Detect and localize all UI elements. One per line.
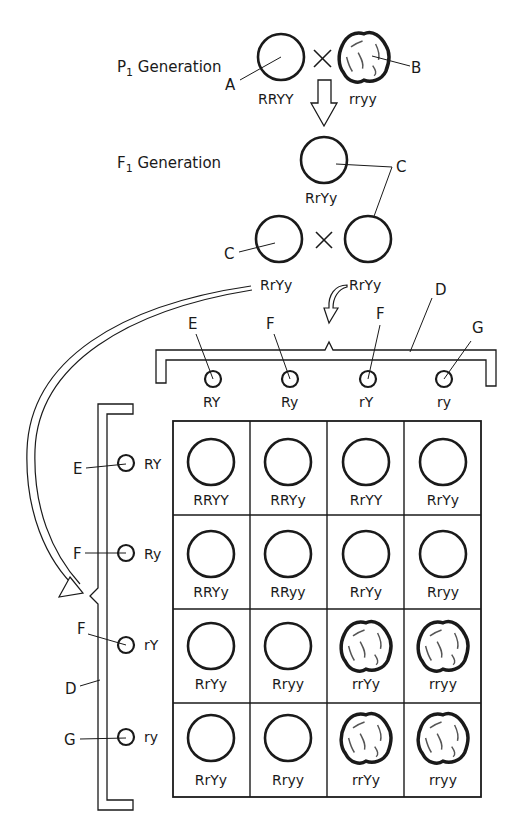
svg-text:Ry: Ry: [144, 546, 161, 562]
wrinkled-seed-icon: [418, 621, 468, 671]
genotype-f1: RrYy: [305, 190, 337, 206]
curved-arrow-to-top-gametes-icon: [324, 285, 347, 323]
svg-text:Rryy: Rryy: [272, 772, 304, 788]
left-gamete-3: G ry: [64, 729, 158, 749]
punnett-cell-0-2: RrYY: [343, 439, 389, 508]
top-gamete-0: E RY: [188, 315, 221, 410]
svg-text:RrYY: RrYY: [350, 492, 383, 508]
punnett-cell-0-1: RRYy: [265, 439, 311, 508]
svg-text:RRYY: RRYY: [193, 492, 229, 508]
svg-text:G: G: [472, 319, 484, 337]
down-arrow-icon: [311, 80, 337, 126]
svg-text:F: F: [77, 620, 86, 638]
svg-text:rY: rY: [359, 394, 374, 410]
round-seed-f1: [301, 137, 347, 183]
svg-text:G: G: [64, 731, 76, 749]
left-gamete-2: F rY: [77, 620, 159, 653]
svg-text:RRyy: RRyy: [270, 584, 305, 600]
svg-text:RRYy: RRYy: [270, 492, 305, 508]
svg-text:ry: ry: [437, 394, 451, 410]
pointer-line-d-left: [80, 680, 100, 686]
left-gamete-0: E RY: [73, 455, 162, 478]
svg-text:RrYy: RrYy: [195, 676, 227, 692]
punnett-cell-2-0: RrYy: [188, 623, 234, 692]
left-gamete-1: F Ry: [73, 545, 161, 563]
svg-text:rY: rY: [144, 637, 159, 653]
svg-text:RRYy: RRYy: [193, 584, 228, 600]
round-seed-f1-right: [345, 216, 391, 262]
cross-symbol-icon-f1: [316, 232, 332, 248]
genotype-f1-left: RrYy: [260, 277, 292, 293]
wrinkled-seed-icon: [341, 621, 391, 671]
wrinkled-seed-icon: [341, 713, 391, 763]
dihybrid-cross-diagram: P1 Generation A RRYY B rryy F1 Generatio…: [0, 0, 522, 832]
svg-text:ry: ry: [144, 729, 158, 745]
svg-text:F: F: [266, 315, 275, 333]
svg-text:E: E: [188, 315, 197, 333]
punnett-cell-0-3: RrYy: [420, 439, 466, 508]
svg-text:RrYy: RrYy: [195, 772, 227, 788]
top-gamete-1: F Ry: [266, 315, 298, 410]
svg-text:RrYy: RrYy: [350, 584, 382, 600]
svg-text:RY: RY: [144, 456, 162, 472]
svg-text:F: F: [376, 305, 385, 323]
genotype-f1-right: RrYy: [349, 277, 381, 293]
svg-text:Ry: Ry: [281, 394, 298, 410]
punnett-cell-3-0: RrYy: [188, 715, 234, 788]
wrinkled-seed-icon: [418, 713, 468, 763]
punnett-cell-0-0: RRYY: [188, 439, 234, 508]
svg-text:rrYy: rrYy: [352, 772, 380, 788]
svg-text:rryy: rryy: [429, 772, 457, 788]
svg-text:F: F: [73, 545, 82, 563]
pointer-label-d-left: D: [65, 680, 77, 698]
long-arrow-head-icon: [59, 577, 83, 597]
svg-text:Rryy: Rryy: [427, 584, 459, 600]
punnett-cell-1-0: RRYy: [188, 531, 234, 600]
pointer-label-c-left: C: [224, 245, 234, 263]
pointer-label-c: C: [396, 158, 406, 176]
wrinkled-seed-parent-b: [339, 32, 389, 82]
svg-text:Rryy: Rryy: [272, 676, 304, 692]
f1-generation-label: F1 Generation: [117, 154, 221, 175]
svg-text:rryy: rryy: [429, 676, 457, 692]
round-seed-f1-left: [256, 216, 302, 262]
pointer-line-d-top: [410, 298, 432, 352]
genotype-rryy-parent-b: rryy: [349, 91, 377, 107]
p1-generation-label: P1 Generation: [117, 58, 222, 79]
cross-symbol-icon: [314, 50, 331, 67]
svg-text:RY: RY: [203, 394, 221, 410]
svg-text:RrYy: RrYy: [427, 492, 459, 508]
svg-text:rrYy: rrYy: [352, 676, 380, 692]
top-gamete-3: G ry: [436, 319, 484, 410]
pointer-label-a: A: [225, 76, 236, 94]
genotype-rryy-parent-a: RRYY: [258, 91, 294, 107]
punnett-cell-1-1: RRyy: [265, 531, 311, 600]
pointer-label-b: B: [411, 59, 421, 77]
punnett-cell-1-2: RrYy: [343, 531, 389, 600]
pointer-label-d-top: D: [435, 281, 447, 299]
svg-text:E: E: [73, 460, 82, 478]
